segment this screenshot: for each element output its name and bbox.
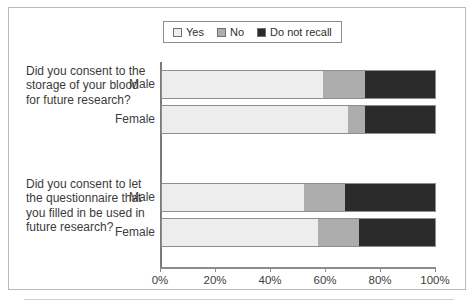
legend-swatch-no-icon [217, 28, 226, 37]
bar-q1-female: Female [161, 218, 436, 247]
legend-swatch-do-not-recall-icon [257, 28, 266, 37]
bar-segment-do-not-recall [359, 218, 436, 247]
x-tick-0 [160, 267, 161, 272]
x-tick-label-80: 80% [368, 274, 391, 286]
x-tick-label-100: 100% [420, 274, 449, 286]
bar-segment-yes [161, 105, 348, 134]
legend-label: Do not recall [270, 27, 332, 38]
x-tick-20 [215, 267, 216, 272]
bar-segment-no [323, 70, 364, 99]
bar-segment-no [318, 218, 359, 247]
x-tick-label-40: 40% [258, 274, 281, 286]
x-tick-100 [435, 267, 436, 272]
bar-q1-male: Male [161, 183, 436, 212]
legend-label: Yes [186, 27, 204, 38]
x-tick-label-20: 20% [203, 274, 226, 286]
bar-segment-do-not-recall [345, 183, 436, 212]
bar-segment-no [348, 105, 365, 134]
bottom-divider [24, 299, 454, 300]
category-label-female: Female [115, 113, 155, 125]
x-axis-line [160, 267, 435, 269]
x-tick-label-60: 60% [313, 274, 336, 286]
bar-q0-male: Male [161, 70, 436, 99]
bar-segment-no [304, 183, 345, 212]
bar-segment-yes [161, 218, 318, 247]
chart-legend: YesNoDo not recall [163, 21, 342, 43]
legend-item-do-not-recall: Do not recall [257, 27, 332, 38]
chart-figure: YesNoDo not recall Did you consent to th… [0, 0, 474, 306]
x-tick-40 [270, 267, 271, 272]
legend-item-no: No [217, 27, 244, 38]
plot-area: 0%20%40%60%80%100% MaleFemaleMaleFemale [160, 62, 435, 267]
bar-segment-do-not-recall [365, 105, 437, 134]
x-tick-80 [380, 267, 381, 272]
bar-segment-yes [161, 70, 323, 99]
legend-item-yes: Yes [173, 27, 204, 38]
x-tick-label-0: 0% [152, 274, 169, 286]
category-label-male: Male [129, 78, 155, 90]
bar-segment-do-not-recall [365, 70, 437, 99]
category-label-female: Female [115, 226, 155, 238]
x-tick-60 [325, 267, 326, 272]
category-label-male: Male [129, 191, 155, 203]
bar-q0-female: Female [161, 105, 436, 134]
bar-segment-yes [161, 183, 304, 212]
legend-swatch-yes-icon [173, 28, 182, 37]
legend-label: No [230, 27, 244, 38]
